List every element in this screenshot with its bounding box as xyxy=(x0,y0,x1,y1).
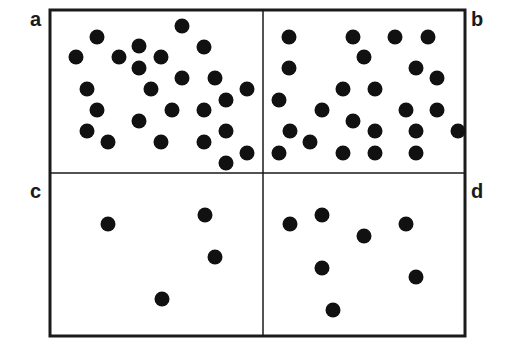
dot xyxy=(132,61,147,76)
dot xyxy=(197,103,212,118)
dot xyxy=(315,103,330,118)
dot xyxy=(69,50,84,65)
dot xyxy=(451,124,466,139)
dot xyxy=(219,124,234,139)
dot xyxy=(101,217,116,232)
dot xyxy=(219,93,234,108)
dot xyxy=(144,82,159,97)
dot xyxy=(198,208,213,223)
dot xyxy=(283,124,298,139)
dot xyxy=(197,40,212,55)
dot xyxy=(409,270,424,285)
dot xyxy=(430,71,445,86)
dot xyxy=(154,50,169,65)
dot xyxy=(409,61,424,76)
dot xyxy=(80,124,95,139)
dot xyxy=(409,146,424,161)
dot xyxy=(282,30,297,45)
dot xyxy=(282,61,297,76)
dot xyxy=(90,30,105,45)
dot xyxy=(430,103,445,118)
panel-b-dots xyxy=(272,30,466,161)
dot xyxy=(368,82,383,97)
figure-canvas xyxy=(0,0,509,358)
dot xyxy=(388,30,403,45)
panel-label-d: d xyxy=(471,181,483,201)
panel-d-dots xyxy=(283,208,424,318)
dot xyxy=(315,261,330,276)
dot xyxy=(283,217,298,232)
dots-layer xyxy=(69,19,466,318)
quadrant-dot-figure: a b c d xyxy=(0,0,509,358)
dot xyxy=(272,93,287,108)
dot xyxy=(357,229,372,244)
dot xyxy=(336,82,351,97)
dot xyxy=(132,39,147,54)
dot xyxy=(368,146,383,161)
panel-c-dots xyxy=(101,208,223,307)
panel-label-b: b xyxy=(471,9,483,29)
dot xyxy=(336,146,351,161)
dot xyxy=(303,135,318,150)
dot xyxy=(272,146,287,161)
dot xyxy=(101,135,116,150)
dot xyxy=(197,135,212,150)
dot xyxy=(80,82,95,97)
dot xyxy=(368,124,383,139)
panel-label-a: a xyxy=(30,9,41,29)
dot xyxy=(315,208,330,223)
dot xyxy=(175,19,190,34)
dot xyxy=(165,103,180,118)
dot xyxy=(154,135,169,150)
dot xyxy=(326,303,341,318)
dot xyxy=(240,82,255,97)
dot xyxy=(399,217,414,232)
dot xyxy=(346,114,361,129)
dot xyxy=(90,103,105,118)
dot xyxy=(399,103,414,118)
dot xyxy=(346,30,361,45)
dot xyxy=(208,71,223,86)
dot xyxy=(112,50,127,65)
dot xyxy=(421,30,436,45)
dot xyxy=(208,250,223,265)
dot xyxy=(155,292,170,307)
dot xyxy=(357,50,372,65)
dot xyxy=(175,71,190,86)
panel-a-dots xyxy=(69,19,255,171)
panel-label-c: c xyxy=(30,181,41,201)
dot xyxy=(409,124,424,139)
dot xyxy=(132,114,147,129)
dot xyxy=(219,156,234,171)
dot xyxy=(240,146,255,161)
